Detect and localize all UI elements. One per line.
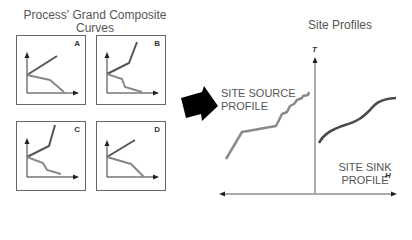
h-axis-label: H (385, 171, 391, 180)
h-axis-left-arrow-icon (219, 192, 225, 197)
site-sink-curve (319, 98, 396, 143)
h-axis-right-arrow-icon (391, 192, 397, 197)
t-axis-arrow-icon (313, 57, 318, 63)
t-axis-label: T (312, 45, 317, 54)
site-source-profile-label: SITE SOURCE PROFILE (221, 87, 296, 113)
